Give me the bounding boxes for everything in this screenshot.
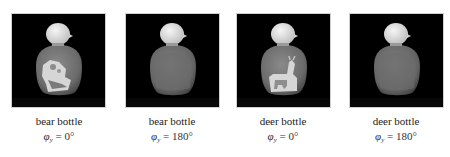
image-frame [125, 13, 220, 108]
angle-value: 180° [396, 130, 417, 142]
axis-subscript: y [274, 136, 277, 144]
angle-value: 0° [289, 130, 299, 142]
angle-value: 0° [65, 130, 75, 142]
axis-subscript: y [381, 136, 384, 144]
rotation-angle: φy = 180° [341, 129, 450, 147]
equals-sign: = [163, 130, 169, 142]
figure: bear bottle φy = 0° bear bottle φy = 180… [0, 0, 450, 157]
equals-sign: = [387, 130, 393, 142]
caption-panel-4: deer bottle φy = 180° [341, 114, 450, 147]
object-name: deer bottle [341, 114, 450, 128]
image-frame [349, 13, 444, 108]
object-name: bear bottle [117, 114, 227, 128]
caption-panel-1: bear bottle φy = 0° [4, 114, 114, 147]
panel-bear-bottle-front [11, 13, 106, 108]
image-frame [11, 13, 106, 108]
bottle-image [126, 14, 219, 107]
bottle-image [12, 14, 105, 107]
axis-subscript: y [157, 136, 160, 144]
object-name: bear bottle [4, 114, 114, 128]
panel-deer-bottle-back [349, 13, 444, 108]
axis-subscript: y [50, 136, 53, 144]
rotation-angle: φy = 0° [228, 129, 338, 147]
equals-sign: = [280, 130, 286, 142]
bottle-image [350, 14, 443, 107]
equals-sign: = [56, 130, 62, 142]
bottle-image [237, 14, 330, 107]
caption-panel-3: deer bottle φy = 0° [228, 114, 338, 147]
object-name: deer bottle [228, 114, 338, 128]
panel-deer-bottle-front [236, 13, 331, 108]
caption-panel-2: bear bottle φy = 180° [117, 114, 227, 147]
rotation-angle: φy = 180° [117, 129, 227, 147]
image-frame [236, 13, 331, 108]
panel-bear-bottle-back [125, 13, 220, 108]
angle-value: 180° [172, 130, 193, 142]
rotation-angle: φy = 0° [4, 129, 114, 147]
